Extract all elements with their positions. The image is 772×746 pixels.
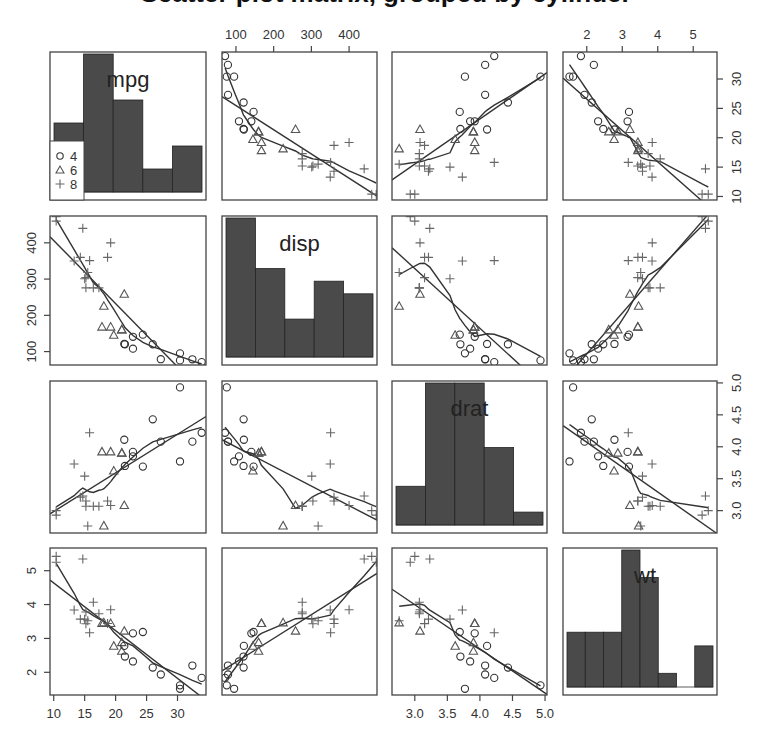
point-cyl8 bbox=[445, 615, 454, 624]
points bbox=[392, 212, 547, 390]
x-tick-label: 200 bbox=[263, 27, 285, 42]
point-cyl4 bbox=[121, 436, 128, 443]
point-cyl4 bbox=[590, 61, 597, 68]
point-cyl4 bbox=[149, 416, 156, 423]
point-cyl8 bbox=[704, 190, 713, 199]
scatter-plot-matrix: mpgdispdratwt46810152025303.03.54.04.55.… bbox=[0, 0, 772, 746]
histogram-bar bbox=[640, 577, 658, 687]
y-tick-label: 300 bbox=[24, 268, 39, 290]
point-cyl6 bbox=[118, 449, 126, 457]
point-cyl8 bbox=[698, 212, 707, 221]
histogram-bar bbox=[396, 486, 425, 525]
histogram-bar bbox=[604, 632, 622, 687]
point-cyl4 bbox=[491, 674, 498, 681]
x-tick-label: 15 bbox=[77, 706, 91, 721]
point-cyl4 bbox=[570, 384, 577, 391]
point-cyl8 bbox=[458, 605, 467, 614]
point-cyl8 bbox=[624, 158, 633, 167]
point-cyl8 bbox=[656, 283, 665, 292]
x-tick-label: 20 bbox=[108, 706, 122, 721]
point-cyl4 bbox=[595, 453, 602, 460]
point-cyl4 bbox=[504, 341, 511, 348]
point-cyl4 bbox=[537, 357, 544, 364]
x-tick-label: 3 bbox=[619, 27, 626, 42]
point-cyl8 bbox=[326, 428, 335, 437]
point-cyl8 bbox=[308, 497, 317, 506]
point-cyl8 bbox=[490, 158, 499, 167]
point-cyl8 bbox=[490, 628, 499, 637]
point-cyl4 bbox=[483, 126, 490, 133]
point-cyl4 bbox=[471, 630, 478, 637]
point-cyl6 bbox=[416, 125, 424, 132]
x-tick-label: 10 bbox=[46, 706, 60, 721]
point-cyl4 bbox=[224, 61, 231, 68]
point-cyl6 bbox=[110, 331, 118, 339]
x-tick-label: 25 bbox=[139, 706, 153, 721]
y-tick-label: 5.0 bbox=[729, 374, 744, 392]
point-cyl6 bbox=[291, 627, 299, 635]
x-tick-label: 2 bbox=[583, 27, 590, 42]
point-cyl8 bbox=[106, 605, 115, 614]
point-cyl8 bbox=[445, 274, 454, 283]
point-cyl4 bbox=[625, 108, 632, 115]
histogram-bar bbox=[255, 269, 284, 357]
point-cyl6 bbox=[120, 501, 128, 509]
panel-frame bbox=[50, 381, 206, 533]
point-cyl6 bbox=[471, 146, 479, 154]
point-cyl4 bbox=[240, 642, 247, 649]
point-cyl8 bbox=[633, 497, 642, 506]
point-cyl4 bbox=[139, 628, 146, 635]
diagonal-label-drat: drat bbox=[451, 396, 489, 421]
point-cyl6 bbox=[249, 135, 257, 143]
histogram-bar bbox=[314, 281, 343, 357]
points bbox=[50, 384, 206, 531]
point-cyl8 bbox=[648, 460, 657, 469]
point-cyl4 bbox=[176, 384, 183, 391]
point-cyl4 bbox=[198, 429, 205, 436]
point-cyl6 bbox=[634, 323, 642, 331]
point-cyl4 bbox=[625, 463, 632, 470]
point-cyl4 bbox=[129, 345, 136, 352]
point-cyl4 bbox=[482, 91, 489, 98]
point-cyl8 bbox=[648, 138, 657, 147]
point-cyl8 bbox=[80, 472, 89, 481]
point-cyl8 bbox=[367, 506, 376, 515]
loess-smooth bbox=[56, 427, 202, 506]
point-cyl6 bbox=[634, 521, 642, 529]
point-cyl4 bbox=[240, 99, 247, 106]
point-cyl6 bbox=[610, 467, 618, 475]
point-cyl6 bbox=[626, 290, 634, 298]
point-cyl8 bbox=[106, 238, 115, 247]
point-cyl8 bbox=[345, 138, 354, 147]
points bbox=[50, 212, 206, 396]
point-cyl8 bbox=[81, 283, 90, 292]
point-cyl4 bbox=[223, 384, 230, 391]
point-cyl8 bbox=[645, 502, 654, 511]
panel-drat-vs-mpg bbox=[50, 381, 206, 533]
point-cyl8 bbox=[698, 511, 707, 520]
point-cyl8 bbox=[395, 268, 404, 277]
points bbox=[392, 552, 547, 695]
point-cyl8 bbox=[326, 173, 335, 182]
regression-line bbox=[392, 248, 547, 390]
point-cyl8 bbox=[308, 161, 317, 170]
point-cyl6 bbox=[110, 642, 118, 650]
point-cyl4 bbox=[482, 61, 489, 68]
point-cyl6 bbox=[100, 521, 108, 529]
point-cyl4 bbox=[176, 357, 183, 364]
point-cyl6 bbox=[98, 447, 106, 455]
point-cyl8 bbox=[648, 501, 657, 510]
histogram-bar bbox=[585, 632, 603, 687]
point-cyl6 bbox=[634, 447, 642, 455]
point-cyl4 bbox=[198, 674, 205, 681]
point-cyl8 bbox=[76, 493, 85, 502]
point-cyl4 bbox=[129, 630, 136, 637]
x-tick-label: 100 bbox=[225, 27, 247, 42]
point-cyl4 bbox=[176, 458, 183, 465]
point-cyl6 bbox=[291, 125, 299, 132]
points bbox=[392, 53, 547, 199]
point-cyl8 bbox=[458, 256, 467, 265]
point-cyl6 bbox=[610, 135, 618, 143]
panel-wt-vs-drat bbox=[392, 548, 547, 695]
panel-disp-vs-mpg bbox=[50, 212, 206, 396]
